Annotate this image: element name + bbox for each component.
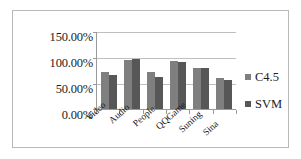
legend-item-c45: C4.5: [245, 71, 301, 84]
bar-group: [143, 32, 166, 109]
bar-group: [120, 32, 143, 109]
bar: [109, 75, 117, 109]
y-axis-tick-label: 100.00%: [25, 57, 93, 70]
bar: [132, 59, 140, 109]
chart-legend: C4.5 SVM: [245, 71, 301, 124]
legend-item-svm: SVM: [245, 98, 301, 111]
bar-group: [97, 32, 120, 109]
bar-group: [190, 32, 213, 109]
bar: [224, 80, 232, 109]
y-axis-tick-label: 150.00%: [25, 31, 93, 44]
y-axis-tick-label: 50.00%: [25, 83, 93, 96]
bar-groups: [97, 32, 236, 109]
bar-group: [213, 32, 236, 109]
x-axis-labels: VideoAudioPeopleQQGameSuningSina: [73, 111, 253, 159]
legend-swatch-icon: [245, 74, 251, 80]
bar-group: [167, 32, 190, 109]
bar: [147, 72, 155, 109]
x-axis-category-label: Sina: [201, 119, 220, 138]
legend-label: SVM: [255, 98, 282, 111]
chart-container: 150.00% 100.00% 50.00% 0.00% VideoAudioP…: [12, 10, 289, 148]
bar: [193, 68, 201, 109]
legend-label: C4.5: [255, 71, 279, 84]
y-axis-labels: 150.00% 100.00% 50.00% 0.00%: [25, 31, 93, 110]
legend-swatch-icon: [245, 101, 251, 107]
bar: [216, 78, 224, 109]
bar: [155, 77, 163, 109]
plot-area: [96, 32, 236, 110]
bar: [201, 68, 209, 109]
